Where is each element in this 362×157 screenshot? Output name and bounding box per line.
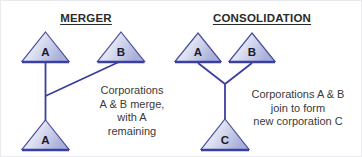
caption-line: A & B merge,	[84, 98, 180, 112]
caption-line: remaining	[84, 125, 180, 139]
node-label: A	[41, 46, 49, 58]
caption-line: join to form	[234, 102, 362, 116]
node-label: C	[221, 134, 229, 146]
caption-line: Corporations A & B	[234, 88, 362, 102]
consolidation-edge-b-to-junction	[225, 63, 252, 84]
merger-caption: Corporations A & B merge, with A remaini…	[84, 84, 180, 138]
caption-line: Corporations	[84, 84, 180, 98]
consolidation-caption: Corporations A & B join to form new corp…	[234, 88, 362, 129]
merger-node-b-top: B	[98, 32, 145, 62]
node-label: A	[41, 134, 49, 146]
diagram-canvas: MERGER CONSOLIDATION A B	[0, 0, 362, 157]
node-label: A	[194, 46, 202, 58]
consolidation-node-a: A	[175, 33, 221, 62]
merger-node-a-top: A	[22, 32, 69, 62]
diagram-graphics: A B A A B	[1, 1, 362, 157]
consolidation-node-b: B	[229, 33, 275, 62]
caption-line: new corporation C	[234, 115, 362, 129]
merger-node-a-bottom: A	[22, 120, 69, 150]
caption-line: with A	[84, 111, 180, 125]
node-label: B	[248, 46, 256, 58]
consolidation-edge-a-to-junction	[198, 63, 225, 84]
node-label: B	[117, 46, 125, 58]
